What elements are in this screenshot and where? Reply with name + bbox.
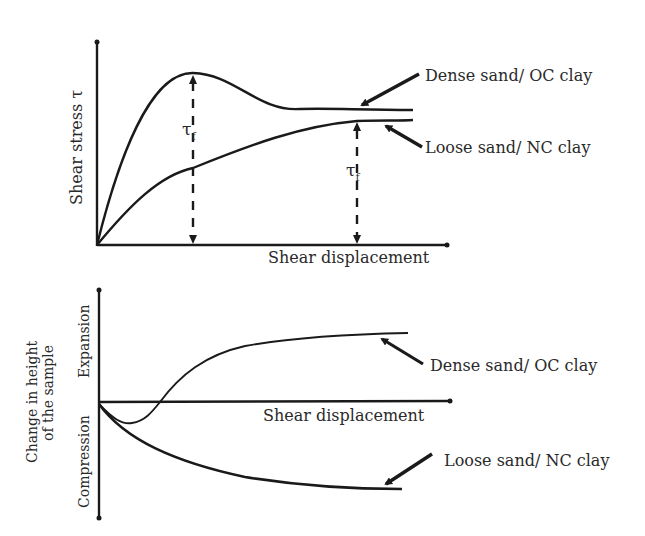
legend-bottom-dense-sand-oc-clay: Dense sand/ OC clay [430,356,597,375]
x-axis-label-bottom-shear-displacement: Shear displacement [263,406,425,425]
y-axis-bottom-bottom-dot [97,516,102,521]
tau-f-label-ultimate: τf [346,160,360,184]
legend-loose-sand-nc-clay: Loose sand/ NC clay [425,138,590,157]
dense-sand-curve [97,73,413,245]
x-axis-label-shear-displacement: Shear displacement [268,248,430,267]
y-positive-label-expansion: Expansion [76,304,92,378]
x-axis-bottom [99,401,450,402]
loose-sand-curve [97,120,413,245]
dense-pointer-arrow [362,74,419,105]
loose-height-pointer-arrow [386,454,432,484]
x-axis-end-dot [445,243,450,248]
y-axis-label-line1: Change in height [24,341,40,463]
dense-height-pointer-arrow [382,339,423,364]
tau-f-ultimate-arrow-up-icon [353,122,361,131]
shear-test-diagram: τf τf Shear stress τ Shear displacement … [0,0,645,536]
y-axis-label-line2: of the sample [40,345,56,441]
y-axis-end-dot [95,40,100,45]
volume-change-chart: Expansion Compression Change in height o… [24,288,609,521]
shear-stress-chart: τf τf Shear stress τ Shear displacement … [67,40,592,268]
legend-dense-sand-oc-clay: Dense sand/ OC clay [425,66,592,85]
y-negative-label-compression: Compression [76,415,92,508]
loose-pointer-arrow [386,126,422,147]
y-axis-bottom-top-dot [97,288,102,293]
y-axis-label-shear-stress: Shear stress τ [67,90,86,205]
tau-f-peak-arrow-up-icon [189,75,197,84]
x-axis-bottom-end-dot [448,399,453,404]
tau-f-label-peak: τf [182,119,196,143]
tau-f-ultimate-arrow-down-icon [353,235,361,244]
legend-bottom-loose-sand-nc-clay: Loose sand/ NC clay [444,451,609,470]
tau-f-peak-arrow-down-icon [189,235,197,244]
